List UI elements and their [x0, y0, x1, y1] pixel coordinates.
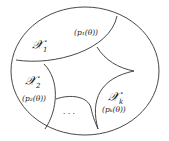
region-x2-label: 𝒳2 [25, 73, 41, 90]
region-x1-param: (p₁(θ)) [74, 28, 98, 37]
region-xk-param: (pₖ(θ)) [102, 105, 126, 114]
region-dots-label: · · · [63, 109, 75, 118]
region-xk-label: 𝒳k [108, 89, 123, 106]
outer-ellipse [11, 7, 159, 135]
region-x2-param: (p₂(θ)) [22, 94, 46, 103]
partition-diagram: 𝒳1 (p₁(θ)) 𝒳2 (p₂(θ)) 𝒳k (pₖ(θ)) · · · [0, 0, 169, 141]
center-right-boundary [97, 47, 134, 71]
region-x1-label: 𝒳1 [32, 37, 47, 54]
